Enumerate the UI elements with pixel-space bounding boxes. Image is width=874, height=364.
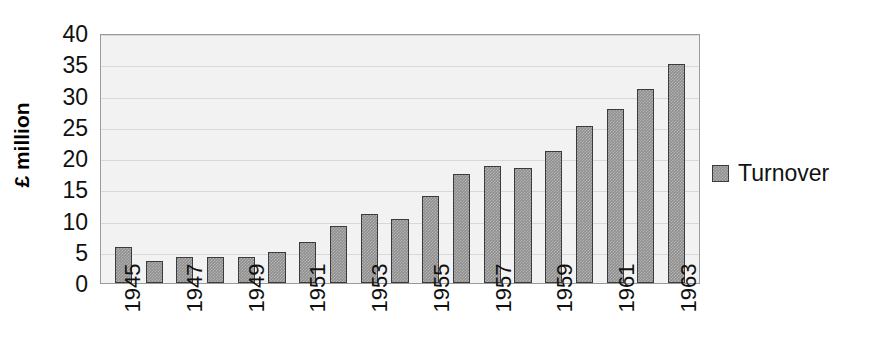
bar-1961[interactable] bbox=[607, 109, 624, 283]
x-tick-slot: 1963 bbox=[662, 286, 693, 364]
legend-label-turnover: Turnover bbox=[738, 160, 829, 187]
x-tick-slot: 1955 bbox=[415, 286, 446, 364]
x-tick-slot: 1957 bbox=[477, 286, 508, 364]
x-tick-slot bbox=[323, 286, 354, 364]
x-tick-slot bbox=[200, 286, 231, 364]
bars-container bbox=[101, 35, 699, 283]
x-tick-slot: 1951 bbox=[292, 286, 323, 364]
chart-legend: Turnover bbox=[712, 160, 829, 187]
bar-1960[interactable] bbox=[576, 126, 593, 284]
y-axis-tick-30: 30 bbox=[62, 85, 88, 108]
x-tick-slot: 1961 bbox=[601, 286, 632, 364]
bar-1962[interactable] bbox=[637, 89, 654, 283]
y-axis-tick-0: 0 bbox=[75, 273, 88, 296]
bar-slot bbox=[200, 35, 231, 283]
bar-1963[interactable] bbox=[668, 64, 685, 283]
bar-1950[interactable] bbox=[268, 252, 285, 283]
bar-1954[interactable] bbox=[391, 219, 408, 283]
bar-slot bbox=[446, 35, 477, 283]
plot-area bbox=[100, 34, 700, 284]
y-axis-tick-20: 20 bbox=[62, 148, 88, 171]
x-tick-slot bbox=[385, 286, 416, 364]
bar-1948[interactable] bbox=[207, 257, 224, 283]
y-axis-tick-5: 5 bbox=[75, 241, 88, 264]
bar-slot bbox=[139, 35, 170, 283]
y-axis-tick-15: 15 bbox=[62, 179, 88, 202]
x-tick-slot bbox=[446, 286, 477, 364]
y-axis-tick-40: 40 bbox=[62, 23, 88, 46]
bar-slot bbox=[569, 35, 600, 283]
y-axis-title: £ million bbox=[0, 0, 44, 290]
x-tick-slot bbox=[570, 286, 601, 364]
bar-slot bbox=[661, 35, 692, 283]
y-axis-title-label: £ million bbox=[10, 102, 34, 187]
bar-1946[interactable] bbox=[146, 261, 163, 283]
bar-slot bbox=[354, 35, 385, 283]
x-tick-slot: 1945 bbox=[107, 286, 138, 364]
x-tick-slot bbox=[508, 286, 539, 364]
bar-slot bbox=[231, 35, 262, 283]
bar-slot bbox=[415, 35, 446, 283]
bar-slot bbox=[108, 35, 139, 283]
x-tick-slot: 1947 bbox=[169, 286, 200, 364]
bar-1958[interactable] bbox=[514, 168, 531, 283]
bar-slot bbox=[262, 35, 293, 283]
bar-slot bbox=[385, 35, 416, 283]
x-axis-tick-labels: 1945194719491951195319551957195919611963 bbox=[100, 286, 700, 364]
bar-slot bbox=[477, 35, 508, 283]
bar-1956[interactable] bbox=[453, 174, 470, 283]
x-tick-slot bbox=[631, 286, 662, 364]
bar-slot bbox=[292, 35, 323, 283]
x-axis-tick-1963: 1963 bbox=[678, 264, 700, 313]
y-axis-tick-35: 35 bbox=[62, 54, 88, 77]
x-tick-slot: 1953 bbox=[354, 286, 385, 364]
turnover-bar-chart: £ million 0510152025303540 1945194719491… bbox=[0, 0, 874, 364]
bar-1952[interactable] bbox=[330, 226, 347, 284]
bar-slot bbox=[169, 35, 200, 283]
bar-slot bbox=[630, 35, 661, 283]
bar-slot bbox=[323, 35, 354, 283]
x-tick-slot bbox=[138, 286, 169, 364]
x-tick-slot bbox=[261, 286, 292, 364]
bar-slot bbox=[538, 35, 569, 283]
x-tick-slot: 1949 bbox=[230, 286, 261, 364]
y-axis-tick-25: 25 bbox=[62, 116, 88, 139]
y-axis-tick-10: 10 bbox=[62, 210, 88, 233]
legend-swatch-turnover bbox=[712, 165, 729, 182]
x-tick-slot: 1959 bbox=[539, 286, 570, 364]
y-axis-tick-labels: 0510152025303540 bbox=[44, 34, 94, 284]
bar-slot bbox=[600, 35, 631, 283]
bar-slot bbox=[508, 35, 539, 283]
